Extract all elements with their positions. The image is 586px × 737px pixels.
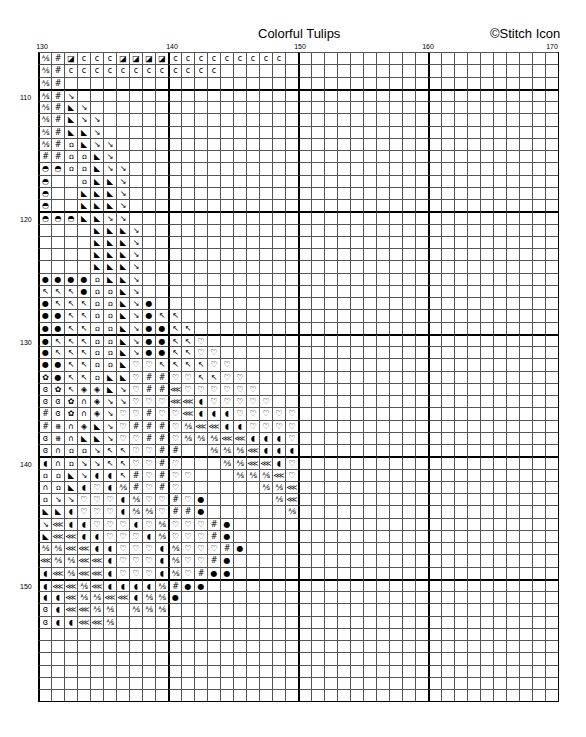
stitch-cell: ♡ [129, 444, 142, 456]
stitch-cell [207, 640, 220, 652]
stitch-cell [272, 346, 285, 358]
stitch-cell [454, 444, 467, 456]
stitch-cell: ⋘ [285, 493, 298, 505]
stitch-cell [545, 395, 558, 407]
stitch-cell [298, 101, 311, 113]
stitch-cell [207, 665, 220, 677]
stitch-cell [454, 481, 467, 493]
stitch-cell: ◖ [38, 456, 51, 468]
stitch-cell [480, 444, 493, 456]
stitch-cell [194, 101, 207, 113]
stitch-cell [519, 138, 532, 150]
stitch-cell: ♡ [233, 395, 246, 407]
stitch-cell: ◖ [103, 542, 116, 554]
stitch-cell [493, 52, 506, 64]
stitch-cell [467, 150, 480, 162]
stitch-cell [233, 616, 246, 628]
stitch-cell [207, 591, 220, 603]
stitch-cell [480, 187, 493, 199]
stitch-cell [155, 689, 168, 701]
stitch-cell: ⅍ [38, 64, 51, 76]
stitch-cell: ◣ [64, 101, 77, 113]
stitch-cell [415, 334, 428, 346]
stitch-cell [415, 285, 428, 297]
row-label: 130 [20, 339, 32, 346]
stitch-cell: ⅍ [77, 579, 90, 591]
stitch-cell: ↖ [103, 456, 116, 468]
stitch-cell [480, 579, 493, 591]
stitch-cell: ⋘ [103, 591, 116, 603]
stitch-cell: ɞ [38, 444, 51, 456]
stitch-cell [454, 101, 467, 113]
stitch-cell [363, 505, 376, 517]
stitch-cell [519, 64, 532, 76]
stitch-cell [311, 371, 324, 383]
stitch-cell [363, 469, 376, 481]
stitch-cell [350, 395, 363, 407]
stitch-cell [207, 469, 220, 481]
stitch-cell [532, 101, 545, 113]
stitch-cell [441, 175, 454, 187]
stitch-cell [220, 334, 233, 346]
stitch-cell [155, 162, 168, 174]
stitch-cell [454, 432, 467, 444]
stitch-cell [220, 677, 233, 689]
stitch-cell: ↘ [77, 469, 90, 481]
stitch-cell [51, 248, 64, 260]
stitch-cell [103, 113, 116, 125]
stitch-cell [233, 518, 246, 530]
stitch-cell [129, 628, 142, 640]
stitch-cell [168, 77, 181, 89]
stitch-cell [311, 248, 324, 260]
stitch-cell: ◖ [116, 493, 129, 505]
stitch-cell: ⅍ [90, 603, 103, 615]
stitch-cell: ꭥ [90, 346, 103, 358]
stitch-cell [194, 260, 207, 272]
stitch-cell [116, 89, 129, 101]
stitch-cell [259, 591, 272, 603]
stitch-cell [220, 89, 233, 101]
stitch-cell [376, 52, 389, 64]
stitch-cell [467, 64, 480, 76]
stitch-cell [207, 101, 220, 113]
stitch-cell [545, 505, 558, 517]
stitch-cell: ♡ [272, 420, 285, 432]
stitch-cell [246, 309, 259, 321]
stitch-cell [298, 334, 311, 346]
stitch-cell: ◣ [90, 236, 103, 248]
stitch-cell [324, 199, 337, 211]
stitch-cell [285, 530, 298, 542]
stitch-cell [428, 444, 441, 456]
stitch-cell [480, 126, 493, 138]
stitch-cell: ↖ [64, 371, 77, 383]
stitch-cell [363, 150, 376, 162]
stitch-cell [168, 640, 181, 652]
stitch-cell [129, 187, 142, 199]
stitch-cell: # [155, 420, 168, 432]
stitch-cell [311, 493, 324, 505]
stitch-cell: ● [51, 371, 64, 383]
stitch-cell [64, 652, 77, 664]
stitch-cell [324, 371, 337, 383]
stitch-cell: ⅍ [116, 481, 129, 493]
stitch-cell [298, 346, 311, 358]
stitch-cell [493, 260, 506, 272]
stitch-cell [272, 530, 285, 542]
stitch-cell [467, 358, 480, 370]
stitch-cell [350, 358, 363, 370]
stitch-cell [259, 665, 272, 677]
stitch-cell [493, 432, 506, 444]
stitch-cell [363, 371, 376, 383]
stitch-cell [350, 64, 363, 76]
stitch-cell: ◣ [103, 187, 116, 199]
stitch-cell [389, 126, 402, 138]
stitch-cell: ◣ [77, 138, 90, 150]
stitch-cell [441, 432, 454, 444]
stitch-cell [415, 162, 428, 174]
stitch-cell [207, 481, 220, 493]
stitch-cell [298, 211, 311, 223]
stitch-cell: ♡ [103, 493, 116, 505]
stitch-cell [506, 383, 519, 395]
stitch-cell: ◪ [129, 52, 142, 64]
stitch-cell [298, 273, 311, 285]
